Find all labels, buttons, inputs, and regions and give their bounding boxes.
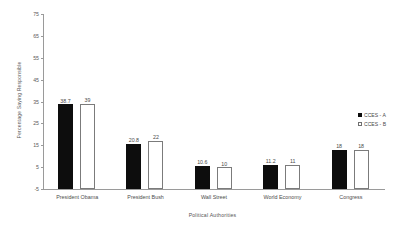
- y-axis-tick-label: -5: [21, 186, 39, 192]
- bar-value-label: 18: [358, 143, 364, 149]
- legend: CCES - ACCES - B: [358, 112, 386, 130]
- bar: 39: [80, 104, 95, 189]
- bar-value-label: 20.8: [129, 137, 139, 143]
- legend-swatch-icon: [358, 122, 362, 126]
- plot-area: 756555453525155-5 38.73920.82210.61011.2…: [43, 14, 385, 190]
- legend-label: CCES - A: [364, 112, 386, 118]
- y-axis-tick-label: 5: [21, 164, 39, 170]
- x-axis-category-label: Congress: [308, 194, 394, 200]
- bar-value-label: 10.6: [197, 159, 207, 165]
- bar-value-label: 18: [336, 143, 342, 149]
- bar-chart: Percentage Saying Responsible 7565554535…: [0, 0, 419, 237]
- bar-group: 1818: [317, 14, 385, 189]
- legend-item[interactable]: CCES - A: [358, 112, 386, 118]
- legend-item[interactable]: CCES - B: [358, 121, 386, 127]
- y-axis-tick-label: 15: [21, 142, 39, 148]
- y-axis-tick-label: 65: [21, 33, 39, 39]
- bar-value-label: 11: [290, 158, 296, 164]
- bar: 20.8: [126, 144, 141, 190]
- bar-group: 11.211: [248, 14, 316, 189]
- bar-value-label: 11.2: [266, 158, 276, 164]
- bar: 18: [354, 150, 369, 189]
- legend-label: CCES - B: [364, 121, 386, 127]
- y-axis-tick-label: 35: [21, 99, 39, 105]
- bar-value-label: 22: [153, 134, 159, 140]
- bar: 22: [148, 141, 163, 189]
- y-axis-tick-label: 55: [21, 55, 39, 61]
- y-axis-tick-label: 25: [21, 120, 39, 126]
- legend-swatch-icon: [358, 113, 362, 117]
- bar: 10.6: [195, 166, 210, 189]
- y-axis-tick-label: 75: [21, 11, 39, 17]
- x-axis-title: Political Authorities: [40, 212, 385, 218]
- y-axis-tick-mark: [41, 189, 44, 190]
- bar-value-label: 10: [221, 161, 227, 167]
- bar-value-label: 38.7: [60, 98, 70, 104]
- bar-value-label: 39: [85, 97, 91, 103]
- bar: 10: [217, 167, 232, 189]
- bar: 38.7: [58, 104, 73, 189]
- bar-group: 20.822: [111, 14, 179, 189]
- bar-group: 38.739: [43, 14, 111, 189]
- bar: 11.2: [263, 165, 278, 190]
- bar: 18: [332, 150, 347, 189]
- x-axis-line: [43, 189, 385, 190]
- bar: 11: [285, 165, 300, 189]
- bar-group: 10.610: [180, 14, 248, 189]
- y-axis-tick-label: 45: [21, 77, 39, 83]
